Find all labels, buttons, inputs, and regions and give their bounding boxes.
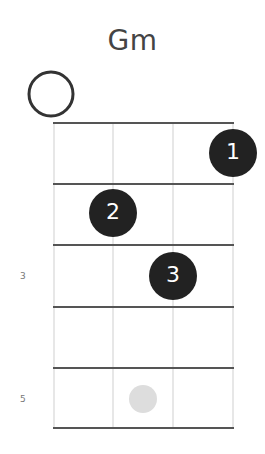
frets bbox=[53, 123, 234, 428]
fret-number-5: 5 bbox=[20, 394, 26, 404]
open-string-marker bbox=[29, 72, 73, 116]
fret-inlay bbox=[129, 385, 157, 413]
finger-label-1: 1 bbox=[209, 139, 257, 164]
fret-number-3: 3 bbox=[20, 271, 26, 281]
finger-label-3: 3 bbox=[149, 262, 197, 287]
strings bbox=[54, 123, 233, 428]
finger-label-2: 2 bbox=[89, 199, 137, 224]
chord-diagram bbox=[0, 0, 265, 454]
